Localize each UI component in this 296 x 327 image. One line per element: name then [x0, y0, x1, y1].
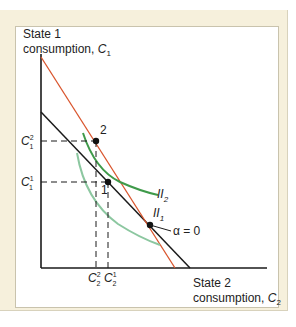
indifference-curve-ii1 [77, 153, 160, 245]
tick-c1-2: C21 [21, 134, 34, 150]
budget-line-black [41, 112, 190, 268]
y-axis-label-line1: State 1 [23, 27, 61, 41]
y-axis-label-line2: consumption, C1 [23, 42, 111, 58]
label-ii2: II2 [157, 187, 169, 204]
tick-c1-1: C11 [21, 175, 34, 191]
label-ii1: II1 [153, 206, 164, 223]
point-2 [93, 138, 99, 144]
x-axis-label-line1: State 2 [193, 276, 231, 290]
tick-c2-1: C12 [104, 271, 117, 287]
x-axis-label-line2: consumption, C2 [193, 291, 281, 307]
indifference-diagram: State 1 consumption, C1 State 2 consumpt… [0, 0, 296, 327]
label-alpha-zero: α = 0 [173, 224, 201, 238]
label-point-2: 2 [100, 123, 107, 137]
label-point-1: 1 [101, 183, 108, 197]
tick-c2-2: C22 [88, 271, 101, 287]
